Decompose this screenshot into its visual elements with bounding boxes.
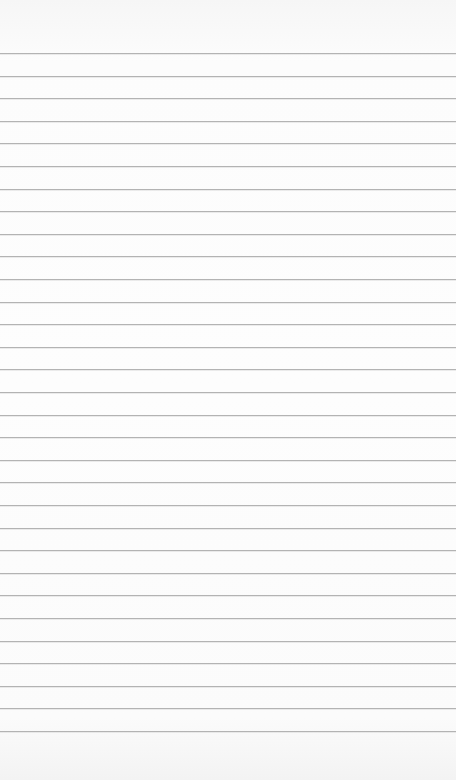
ruled-line bbox=[0, 302, 456, 303]
ruled-line bbox=[0, 595, 456, 596]
ruled-line bbox=[0, 641, 456, 642]
ruled-line bbox=[0, 324, 456, 325]
ruled-line bbox=[0, 211, 456, 212]
ruled-line bbox=[0, 686, 456, 687]
ruled-line bbox=[0, 392, 456, 393]
ruled-line bbox=[0, 166, 456, 167]
ruled-line bbox=[0, 76, 456, 77]
ruled-line bbox=[0, 98, 456, 99]
ruled-line bbox=[0, 369, 456, 370]
ruled-line bbox=[0, 550, 456, 551]
ruled-line bbox=[0, 279, 456, 280]
ruled-line bbox=[0, 505, 456, 506]
ruled-line bbox=[0, 189, 456, 190]
ruled-line bbox=[0, 415, 456, 416]
ruled-line bbox=[0, 482, 456, 483]
ruled-line bbox=[0, 618, 456, 619]
ruled-line bbox=[0, 234, 456, 235]
ruled-line bbox=[0, 528, 456, 529]
ruled-line bbox=[0, 121, 456, 122]
ruled-line bbox=[0, 437, 456, 438]
lined-paper-sheet bbox=[0, 0, 456, 780]
ruled-line bbox=[0, 573, 456, 574]
ruled-line bbox=[0, 347, 456, 348]
ruled-line bbox=[0, 663, 456, 664]
ruled-line bbox=[0, 256, 456, 257]
ruled-line bbox=[0, 731, 456, 732]
ruled-line bbox=[0, 53, 456, 54]
ruled-line bbox=[0, 460, 456, 461]
ruled-line bbox=[0, 708, 456, 709]
ruled-line bbox=[0, 143, 456, 144]
